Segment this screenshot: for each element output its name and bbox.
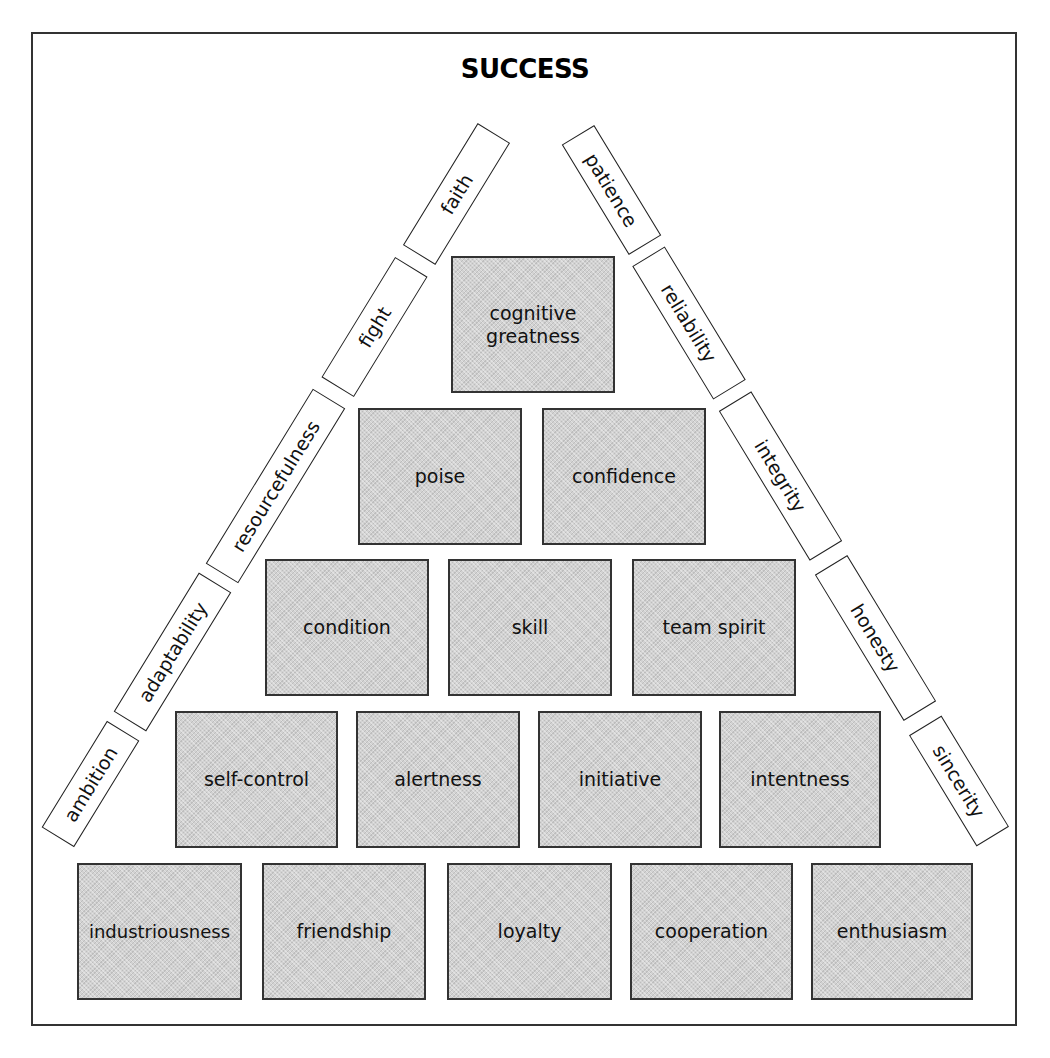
block-label: team spirit <box>662 616 765 639</box>
block-initiative: initiative <box>538 711 702 848</box>
block-label: cognitive greatness <box>478 302 588 348</box>
block-loyalty: loyalty <box>447 863 612 1000</box>
block-label: poise <box>415 465 466 488</box>
block-skill: skill <box>448 559 612 696</box>
block-cognitive-greatness: cognitive greatness <box>451 256 615 393</box>
block-label: condition <box>303 616 391 639</box>
block-label: enthusiasm <box>837 920 948 943</box>
block-intentness: intentness <box>719 711 881 848</box>
block-label: industriousness <box>89 921 230 943</box>
block-alertness: alertness <box>356 711 520 848</box>
block-confidence: confidence <box>542 408 706 545</box>
block-enthusiasm: enthusiasm <box>811 863 973 1000</box>
block-cooperation: cooperation <box>630 863 793 1000</box>
block-label: confidence <box>572 465 676 488</box>
block-self-control: self-control <box>175 711 338 848</box>
block-label: intentness <box>750 768 849 791</box>
block-label: cooperation <box>655 920 768 943</box>
block-label: alertness <box>394 768 481 791</box>
block-industriousness: industriousness <box>77 863 242 1000</box>
block-label: loyalty <box>498 920 562 943</box>
block-label: initiative <box>579 768 662 791</box>
block-team-spirit: team spirit <box>632 559 796 696</box>
block-poise: poise <box>358 408 522 545</box>
block-friendship: friendship <box>262 863 426 1000</box>
block-label: self-control <box>204 768 309 791</box>
block-label: skill <box>512 616 549 639</box>
block-condition: condition <box>265 559 429 696</box>
diagram-title: SUCCESS <box>0 54 1050 84</box>
block-label: friendship <box>297 920 392 943</box>
